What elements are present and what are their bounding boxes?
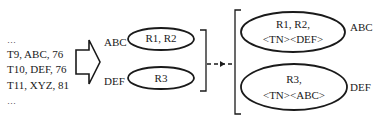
merged-content-line2: <TN><ABC>	[241, 89, 347, 102]
group-content: R3	[128, 72, 194, 85]
block-arrow-icon	[76, 40, 100, 84]
group-content: R1, R2	[128, 32, 194, 45]
merged-content-line1: R1, R2,	[241, 18, 345, 31]
group-key-label: DEF	[104, 75, 125, 88]
input-line: T11, XYZ, 81	[7, 79, 69, 92]
merged-key-label: DEF	[350, 81, 371, 94]
merged-key-label: ABC	[350, 21, 373, 34]
merged-content-line1: R3,	[241, 73, 347, 86]
input-line-ellipsis-bottom: …	[7, 95, 16, 108]
right-bracket	[200, 30, 206, 91]
group-key-label: ABC	[104, 36, 127, 49]
merged-content-line2: <TN><DEF>	[241, 33, 345, 46]
input-line-ellipsis-top: …	[7, 34, 16, 47]
merged-ellipse-def	[241, 64, 347, 110]
arrowhead-icon	[220, 61, 225, 67]
input-line: T9, ABC, 76	[7, 48, 63, 61]
input-line: T10, DEF, 76	[7, 63, 67, 76]
